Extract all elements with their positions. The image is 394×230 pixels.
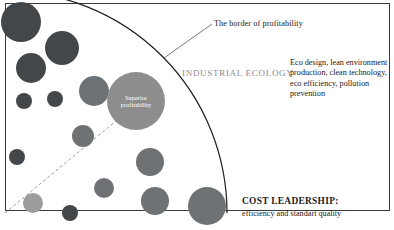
company-bubble-7 <box>72 125 94 147</box>
diagram-canvas: The border of profitability INDUSTRIAL E… <box>0 0 394 230</box>
superior-profitability-line2: profitability <box>106 101 166 108</box>
company-bubble-3 <box>16 53 46 83</box>
company-bubble-14 <box>188 187 226 225</box>
company-bubble-2 <box>45 31 79 65</box>
company-bubble-9 <box>23 193 43 213</box>
company-bubble-12 <box>136 148 164 176</box>
company-bubble-8 <box>9 149 25 165</box>
industrial-ecology-label: INDUSTRIAL ECOLOGY <box>182 68 294 78</box>
border-callout-leader-line <box>164 24 212 58</box>
company-bubble-13 <box>141 187 169 215</box>
border-of-profitability-label: The border of profitability <box>214 19 303 29</box>
cost-leadership-subtitle: efficiency and standart quality <box>242 209 341 219</box>
company-bubble-1 <box>1 2 41 42</box>
company-bubble-4 <box>79 76 109 106</box>
company-bubble-10 <box>62 205 78 221</box>
cost-leadership-title: COST LEADERSHIP: <box>242 196 339 206</box>
superior-profitability-label: Superior profitability <box>106 94 166 109</box>
company-bubble-6 <box>47 91 63 107</box>
profitability-axis-dashed-line <box>5 116 122 213</box>
eco-practices-text: Eco design, lean environment production,… <box>290 58 394 100</box>
company-bubble-11 <box>94 178 114 198</box>
company-bubble-5 <box>16 93 32 109</box>
superior-profitability-line1: Superior <box>106 94 166 101</box>
